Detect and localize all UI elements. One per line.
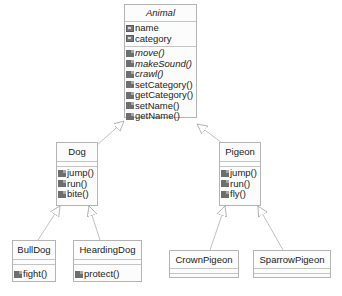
class-name: BullDog xyxy=(13,241,55,260)
method-icon xyxy=(14,271,22,278)
attribute: name xyxy=(126,23,196,34)
class-dog[interactable]: Dog jump() run() bite() xyxy=(56,142,98,206)
method: crawl() xyxy=(126,69,196,80)
class-name: HeardingDog xyxy=(74,241,141,260)
method-icon xyxy=(126,81,134,88)
methods-section: fight() xyxy=(13,265,55,282)
method: fight() xyxy=(14,269,55,280)
bulldog-to-dog-arrow xyxy=(38,206,60,240)
class-crownpigeon[interactable]: CrownPigeon xyxy=(169,250,239,278)
method: jump() xyxy=(221,168,260,179)
attribute-icon xyxy=(126,25,134,32)
class-name: SparrowPigeon xyxy=(254,251,330,269)
method-icon xyxy=(126,113,134,120)
method: getCategory() xyxy=(126,90,196,101)
attribute-icon xyxy=(126,35,134,42)
method-icon xyxy=(221,180,229,187)
class-pigeon[interactable]: Pigeon jump() run() fly() xyxy=(219,142,261,206)
class-animal[interactable]: Animal name category move() makeSound() … xyxy=(124,4,197,118)
methods-section: protect() xyxy=(74,265,141,282)
method-icon xyxy=(126,102,134,109)
class-name: CrownPigeon xyxy=(170,251,238,269)
dog-to-animal-arrow xyxy=(96,121,124,146)
method-icon xyxy=(58,191,66,198)
method-icon xyxy=(58,170,66,177)
class-sparrowpigeon[interactable]: SparrowPigeon xyxy=(253,250,331,278)
method-icon xyxy=(58,180,66,187)
method-icon xyxy=(126,50,134,57)
method: jump() xyxy=(58,168,97,179)
attribute: category xyxy=(126,34,196,45)
class-heardingdog[interactable]: HeardingDog protect() xyxy=(73,240,142,282)
class-name: Dog xyxy=(57,143,97,162)
class-name: Animal xyxy=(125,5,196,22)
methods-section: move() makeSound() crawl() setCategory()… xyxy=(125,47,196,124)
attributes-section: name category xyxy=(125,22,196,47)
method-icon xyxy=(75,271,83,278)
crownpigeon-to-pigeon-arrow xyxy=(210,206,225,250)
method: getName() xyxy=(126,111,196,122)
method-icon xyxy=(126,71,134,78)
methods-section xyxy=(254,274,330,278)
class-name: Pigeon xyxy=(220,143,260,162)
methods-section: jump() run() fly() xyxy=(220,167,260,202)
method-icon xyxy=(221,170,229,177)
method-icon xyxy=(126,60,134,67)
method-icon xyxy=(221,191,229,198)
method: protect() xyxy=(75,269,141,280)
method: fly() xyxy=(221,189,260,200)
sparrowpigeon-to-pigeon-arrow xyxy=(258,206,283,250)
pigeon-to-animal-arrow xyxy=(197,124,222,143)
class-bulldog[interactable]: BullDog fight() xyxy=(12,240,56,282)
method-icon xyxy=(126,92,134,99)
heardingdog-to-dog-arrow xyxy=(89,206,100,240)
methods-section: jump() run() bite() xyxy=(57,167,97,202)
methods-section xyxy=(170,274,238,278)
method: move() xyxy=(126,48,196,59)
method: bite() xyxy=(58,189,97,200)
